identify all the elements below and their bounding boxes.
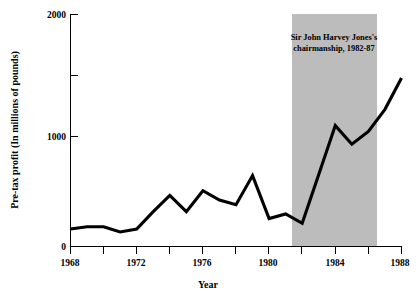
x-tick-label-1988: 1988 [391, 258, 410, 268]
y-axis-title: Pre-tax profit (In millions of pounds) [9, 51, 21, 209]
x-tick-label-1972: 1972 [127, 258, 146, 268]
y-tick-label-1000: 1000 [47, 132, 66, 142]
x-tick-label-1980: 1980 [259, 258, 278, 268]
x-tick-label-1976: 1976 [193, 258, 212, 268]
chart-figure: Sir John Harvey Jones's chairmanship, 19… [0, 0, 417, 297]
line-chart-plot: Sir John Harvey Jones's chairmanship, 19… [0, 0, 417, 297]
x-tick-label-1968: 1968 [61, 258, 80, 268]
chairmanship-annotation-line2: chairmanship, 1982-87 [293, 44, 374, 53]
chairmanship-annotation-line1: Sir John Harvey Jones's [291, 33, 378, 42]
x-tick-label-1984: 1984 [326, 258, 345, 268]
y-tick-label-0: 0 [61, 242, 66, 252]
y-tick-label-2000: 2000 [47, 10, 66, 20]
x-axis-title: Year [198, 279, 219, 290]
